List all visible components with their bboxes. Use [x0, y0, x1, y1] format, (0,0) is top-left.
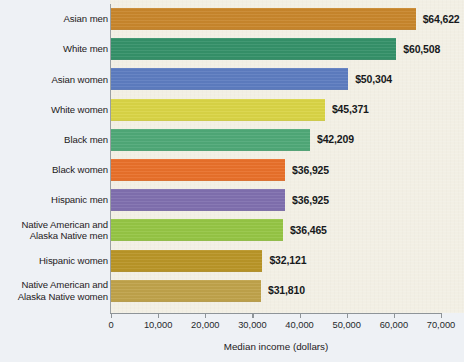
x-tick	[205, 313, 206, 318]
x-tick-label: 60,000	[380, 320, 408, 330]
bar-value-label: $50,304	[355, 73, 392, 85]
bar	[111, 8, 416, 30]
median-income-bar-chart: Asian men$64,622White men$60,508Asian wo…	[0, 0, 464, 362]
category-label: Native American and Alaska Native men	[4, 219, 108, 242]
bar	[111, 129, 310, 151]
x-axis-title: Median income (dollars)	[110, 341, 442, 352]
bar-row: Black men$42,209	[0, 129, 464, 151]
bar	[111, 189, 285, 211]
x-tick	[300, 313, 301, 318]
x-tick	[441, 313, 442, 318]
x-tick	[252, 313, 253, 318]
x-axis-line	[110, 313, 442, 314]
bar-value-label: $36,925	[292, 164, 329, 176]
category-label: White men	[4, 43, 108, 55]
bar	[111, 280, 261, 302]
x-tick-label: 50,000	[332, 320, 360, 330]
bar-value-label: $36,925	[292, 194, 329, 206]
category-label: Asian women	[4, 74, 108, 86]
bar-row: Asian women$50,304	[0, 68, 464, 90]
bar	[111, 159, 285, 181]
bar-row: Native American and Alaska Native women$…	[0, 280, 464, 302]
bar-row: Asian men$64,622	[0, 8, 464, 30]
bar	[111, 219, 283, 241]
x-tick-label: 20,000	[191, 320, 219, 330]
y-axis-line	[110, 4, 111, 313]
category-label: Hispanic women	[4, 255, 108, 267]
category-label: Black men	[4, 134, 108, 146]
x-tick	[347, 313, 348, 318]
x-tick	[394, 313, 395, 318]
bar-value-label: $60,508	[403, 43, 440, 55]
category-label: Hispanic men	[4, 194, 108, 206]
bar-value-label: $31,810	[268, 284, 305, 296]
bar-row: Hispanic women$32,121	[0, 250, 464, 272]
x-tick-label: 70,000	[427, 320, 455, 330]
category-label: Black women	[4, 164, 108, 176]
bar	[111, 68, 348, 90]
bar-rows: Asian men$64,622White men$60,508Asian wo…	[0, 0, 464, 313]
bar-row: White women$45,371	[0, 99, 464, 121]
x-tick	[111, 313, 112, 318]
category-label: Native American and Alaska Native women	[4, 279, 108, 302]
category-label: White women	[4, 104, 108, 116]
bar-value-label: $45,371	[332, 103, 369, 115]
bar-row: Black women$36,925	[0, 159, 464, 181]
category-label: Asian men	[4, 13, 108, 25]
x-tick-label: 0	[108, 320, 113, 330]
bar-row: White men$60,508	[0, 38, 464, 60]
x-tick-label: 30,000	[238, 320, 266, 330]
bar-row: Native American and Alaska Native men$36…	[0, 219, 464, 241]
x-tick-label: 10,000	[144, 320, 172, 330]
bar	[111, 99, 325, 121]
x-tick	[158, 313, 159, 318]
bar-value-label: $42,209	[317, 133, 354, 145]
bar-row: Hispanic men$36,925	[0, 189, 464, 211]
bar	[111, 38, 396, 60]
bar	[111, 250, 262, 272]
bar-value-label: $64,622	[423, 13, 460, 25]
x-tick-label: 40,000	[285, 320, 313, 330]
bar-value-label: $32,121	[269, 254, 306, 266]
bar-value-label: $36,465	[290, 224, 327, 236]
